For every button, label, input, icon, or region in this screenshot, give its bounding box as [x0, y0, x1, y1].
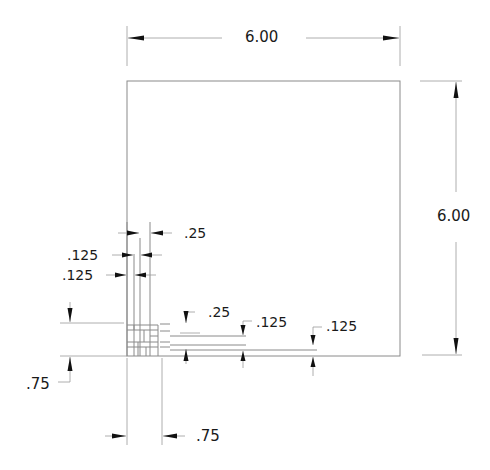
label-strip-gap-top-2: .125 — [62, 268, 93, 282]
vertical-strips — [127, 222, 150, 356]
label-offset-vertical: .75 — [26, 377, 50, 392]
label-overall-height: 6.00 — [437, 209, 470, 224]
drawing-svg — [0, 0, 490, 470]
label-strip-gap-top-1: .125 — [67, 248, 98, 262]
offset-extension-lines — [60, 323, 162, 445]
dim-strip-right — [180, 311, 322, 376]
woven-lattice — [127, 324, 170, 356]
technical-drawing: 6.00 6.00 .25 .125 .125 .25 .125 .125 .7… — [0, 0, 490, 470]
dim-strip-top — [106, 231, 172, 278]
label-strip-gap-right-2: .125 — [326, 319, 357, 333]
label-strip-gap-right-1: .125 — [256, 315, 287, 329]
label-strip-width-top: .25 — [184, 226, 206, 240]
label-offset-horizontal: .75 — [196, 429, 220, 444]
dim-offset-vertical — [58, 302, 73, 382]
horizontal-strips — [170, 336, 317, 350]
dim-offset-horizontal — [105, 434, 185, 439]
label-overall-width: 6.00 — [245, 30, 278, 45]
label-strip-width-right: .25 — [208, 305, 230, 319]
